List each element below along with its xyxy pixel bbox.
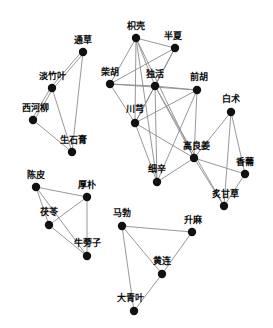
network-graph-canvas: 通草淡竹叶西河柳生石膏枳壳半夏柴胡独活前胡川芎白术高良姜细辛香薷炙甘草陈皮厚朴茯… — [0, 0, 273, 328]
graph-node-xiangru[interactable] — [241, 170, 249, 178]
graph-edge — [36, 187, 87, 197]
graph-node-zhiqiao[interactable] — [132, 34, 140, 42]
graph-node-fuling[interactable] — [45, 221, 53, 229]
graph-node-shengshigao[interactable] — [68, 148, 76, 156]
graph-node-xixin[interactable] — [153, 178, 161, 186]
graph-edge — [224, 174, 245, 206]
graph-edge — [36, 187, 87, 256]
graph-node-xiheliu[interactable] — [29, 116, 37, 124]
graph-node-tongcao[interactable] — [79, 48, 87, 56]
graph-node-mabo[interactable] — [118, 222, 126, 230]
graph-node-chenpi[interactable] — [32, 183, 40, 191]
graph-edge — [33, 120, 72, 152]
graph-edge — [110, 84, 135, 123]
graph-edge — [135, 123, 157, 182]
graph-edge — [32, 87, 51, 119]
graph-node-danzhuye[interactable] — [48, 84, 56, 92]
nodes-layer — [29, 34, 249, 315]
graph-node-chuanxiong[interactable] — [131, 119, 139, 127]
graph-edge — [122, 226, 192, 232]
graph-node-baizhu[interactable] — [227, 108, 235, 116]
graph-edge — [194, 158, 224, 206]
graph-node-houpo[interactable] — [83, 193, 91, 201]
graph-edge — [136, 38, 175, 48]
graph-edge — [224, 112, 231, 206]
graph-node-zhigancao[interactable] — [220, 202, 228, 210]
graph-node-huanglian[interactable] — [158, 270, 166, 278]
graph-edge — [49, 197, 87, 225]
graph-edge — [135, 38, 136, 123]
graph-node-banxia[interactable] — [171, 44, 179, 52]
graph-svg — [0, 0, 273, 328]
graph-edge — [52, 88, 72, 152]
graph-node-daqingye[interactable] — [130, 307, 138, 315]
graph-edge — [134, 274, 162, 311]
edges-layer — [32, 38, 245, 311]
graph-node-gaoliangjiang[interactable] — [190, 154, 198, 162]
graph-edge — [136, 38, 155, 86]
graph-edge — [194, 90, 197, 158]
graph-node-chaihu[interactable] — [106, 80, 114, 88]
graph-edge — [155, 86, 224, 206]
graph-node-niubangzi[interactable] — [83, 252, 91, 260]
graph-edge — [34, 89, 53, 121]
graph-edge — [194, 158, 245, 174]
graph-edge — [51, 51, 82, 87]
graph-edge — [72, 52, 83, 152]
graph-edge — [162, 232, 192, 274]
graph-edge — [231, 112, 245, 174]
graph-edge — [194, 112, 231, 158]
graph-edge — [36, 187, 49, 225]
graph-node-shengma[interactable] — [188, 228, 196, 236]
graph-edge — [157, 90, 197, 182]
graph-node-duhuo[interactable] — [151, 82, 159, 90]
graph-node-qianhu[interactable] — [193, 86, 201, 94]
